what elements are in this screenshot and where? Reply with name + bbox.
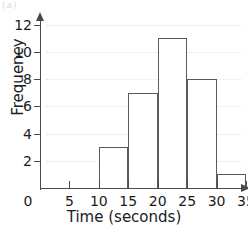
y-tick-2 xyxy=(34,161,41,162)
histogram-plot-area: 24681012 05101520253035 Frequency Time (… xyxy=(0,0,248,228)
y-tick-4 xyxy=(34,134,41,135)
y-tick-10 xyxy=(34,52,41,53)
bar-20-25 xyxy=(158,38,187,188)
x-tick-label-35: 35 xyxy=(233,194,248,208)
y-axis-title: Frequency xyxy=(9,7,27,147)
x-tick-15 xyxy=(128,181,129,189)
y-axis-arrow-icon xyxy=(36,12,44,21)
x-tick-10 xyxy=(99,181,100,189)
bar-10-15 xyxy=(99,147,128,188)
x-tick-25 xyxy=(187,181,188,189)
x-tick-label-30: 30 xyxy=(204,194,230,208)
gridline-y-12 xyxy=(46,25,242,26)
bar-15-20 xyxy=(128,93,157,188)
x-tick-label-5: 5 xyxy=(56,194,82,208)
x-tick-5 xyxy=(69,181,70,189)
chart-canvas: (a) 24681012 05101520253035 Frequency Ti… xyxy=(0,0,248,228)
gridline-y-10 xyxy=(46,52,242,53)
x-tick-20 xyxy=(158,181,159,189)
y-tick-6 xyxy=(34,106,41,107)
x-axis-line xyxy=(40,188,246,189)
x-tick-label-0: 0 xyxy=(15,194,41,208)
x-tick-label-10: 10 xyxy=(86,194,112,208)
y-tick-12 xyxy=(34,25,41,26)
x-tick-35 xyxy=(246,181,247,189)
y-tick-8 xyxy=(34,79,41,80)
x-axis-title: Time (seconds) xyxy=(0,208,248,226)
x-tick-30 xyxy=(217,181,218,189)
y-tick-label-2: 2 xyxy=(6,154,32,168)
y-axis-line xyxy=(40,20,41,190)
x-tick-label-20: 20 xyxy=(145,194,171,208)
x-tick-label-25: 25 xyxy=(174,194,200,208)
bar-25-30 xyxy=(187,79,216,188)
x-tick-label-15: 15 xyxy=(115,194,141,208)
